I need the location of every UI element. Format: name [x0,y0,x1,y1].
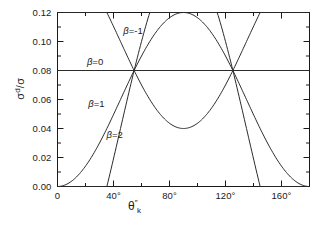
x-axis-title: θ″k [128,198,141,215]
figure-container: σd/σ θ″k 0.000.020.040.060.080.100.12 04… [0,0,319,227]
y-tick-label: 0.06 [18,94,52,105]
beta-value: 2 [118,129,123,140]
beta-value: -1 [134,25,142,36]
x-tick-label: 80° [150,190,190,201]
x-tick-label: 120° [206,190,246,201]
beta-value: 0 [98,56,103,67]
curve-label-beta-0: β=0 [87,56,103,67]
x-tick-label: 0 [38,190,78,201]
y-tick-label: 0.12 [18,7,52,18]
curve-label-beta-2: β=2 [107,129,123,140]
x-tick-label: 40° [94,190,134,201]
x-tick-label: 160° [262,190,302,201]
y-tick-label: 0.02 [18,152,52,163]
curve-label-beta--1: β=-1 [123,25,142,36]
x-axis-title-text: θ″k [128,199,141,213]
curve-label-beta-1: β=1 [88,98,104,109]
y-tick-label: 0.10 [18,36,52,47]
beta-value: 1 [99,98,104,109]
y-tick-label: 0.04 [18,123,52,134]
y-tick-label: 0.08 [18,65,52,76]
